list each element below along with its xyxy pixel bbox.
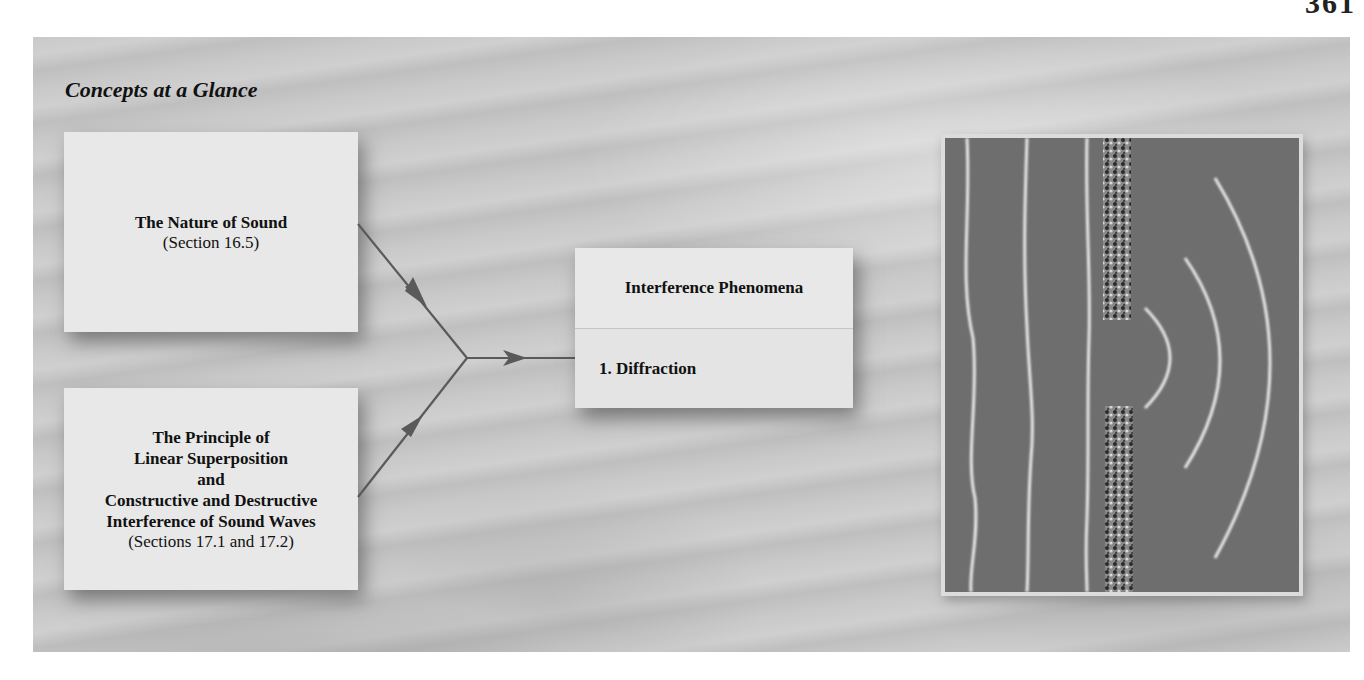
interference-item: 1. Diffraction [575,329,853,408]
diffraction-wave-icon [945,138,1299,592]
arrowhead-upper-icon-body [405,277,427,307]
arrowhead-lower-icon [401,415,423,437]
page-number: 361 [1305,0,1356,20]
interference-heading: Interference Phenomena [575,248,853,329]
diffraction-photo [941,134,1303,596]
concept-box-interference: Interference Phenomena 1. Diffraction [575,248,853,408]
concepts-panel: Concepts at a Glance The Nature of Sound… [33,37,1350,652]
connector-arrows [33,37,593,652]
